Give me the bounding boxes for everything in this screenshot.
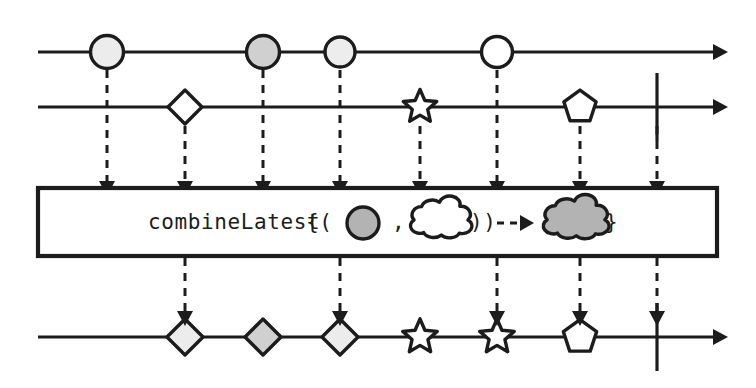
operator-box[interactable]: combineLatest{(,))}: [38, 188, 717, 256]
result-stream: [38, 303, 728, 371]
source-stream-b-end-arrow: [713, 99, 728, 115]
link-r5-arrow: [489, 311, 505, 326]
source-stream-b-b1-diamond[interactable]: [168, 90, 202, 124]
link-r6: [572, 258, 588, 326]
link-a4: [489, 70, 505, 196]
operator-box-layer: combineLatest{(,))}: [38, 188, 717, 256]
operator-close-bracket: )): [470, 210, 497, 234]
source-stream-b: [38, 73, 728, 141]
link-b1: [177, 126, 193, 196]
source-stream-a-a1-circle[interactable]: [91, 36, 124, 69]
operator-open-bracket: {(: [306, 210, 333, 234]
operator-separator-comma: ,: [392, 210, 405, 234]
result-stream-end-arrow: [713, 329, 728, 345]
source-stream-a-a2-circle[interactable]: [247, 36, 280, 69]
result-stream-r2-diamond[interactable]: [245, 319, 281, 355]
operator-input-left-circle: [347, 207, 379, 239]
operator-name-label: combineLatest: [148, 210, 320, 234]
link-b3: [572, 126, 588, 196]
link-r-complete-arrow: [649, 311, 665, 326]
marble-diagram-root: combineLatest{(,))}: [0, 0, 756, 388]
source-stream-a-a3-circle[interactable]: [325, 37, 355, 67]
link-b2: [412, 126, 428, 196]
link-a1: [99, 70, 115, 196]
link-r1: [177, 258, 193, 326]
link-a3: [332, 70, 348, 196]
link-r-complete: [649, 258, 665, 326]
link-r3: [332, 258, 348, 326]
source-stream-b-b3-pentagon[interactable]: [564, 90, 596, 121]
result-stream-r4-star[interactable]: [403, 319, 438, 352]
operator-end-brace: }: [605, 210, 618, 234]
marble-diagram-canvas: combineLatest{(,))}: [0, 0, 756, 388]
source-stream-a-a4-circle[interactable]: [482, 37, 513, 68]
link-r5: [489, 258, 505, 326]
link-a2: [255, 70, 271, 196]
source-stream-a: [38, 36, 728, 69]
source-stream-a-end-arrow: [713, 44, 728, 60]
source-stream-b-b2-star[interactable]: [403, 89, 436, 121]
